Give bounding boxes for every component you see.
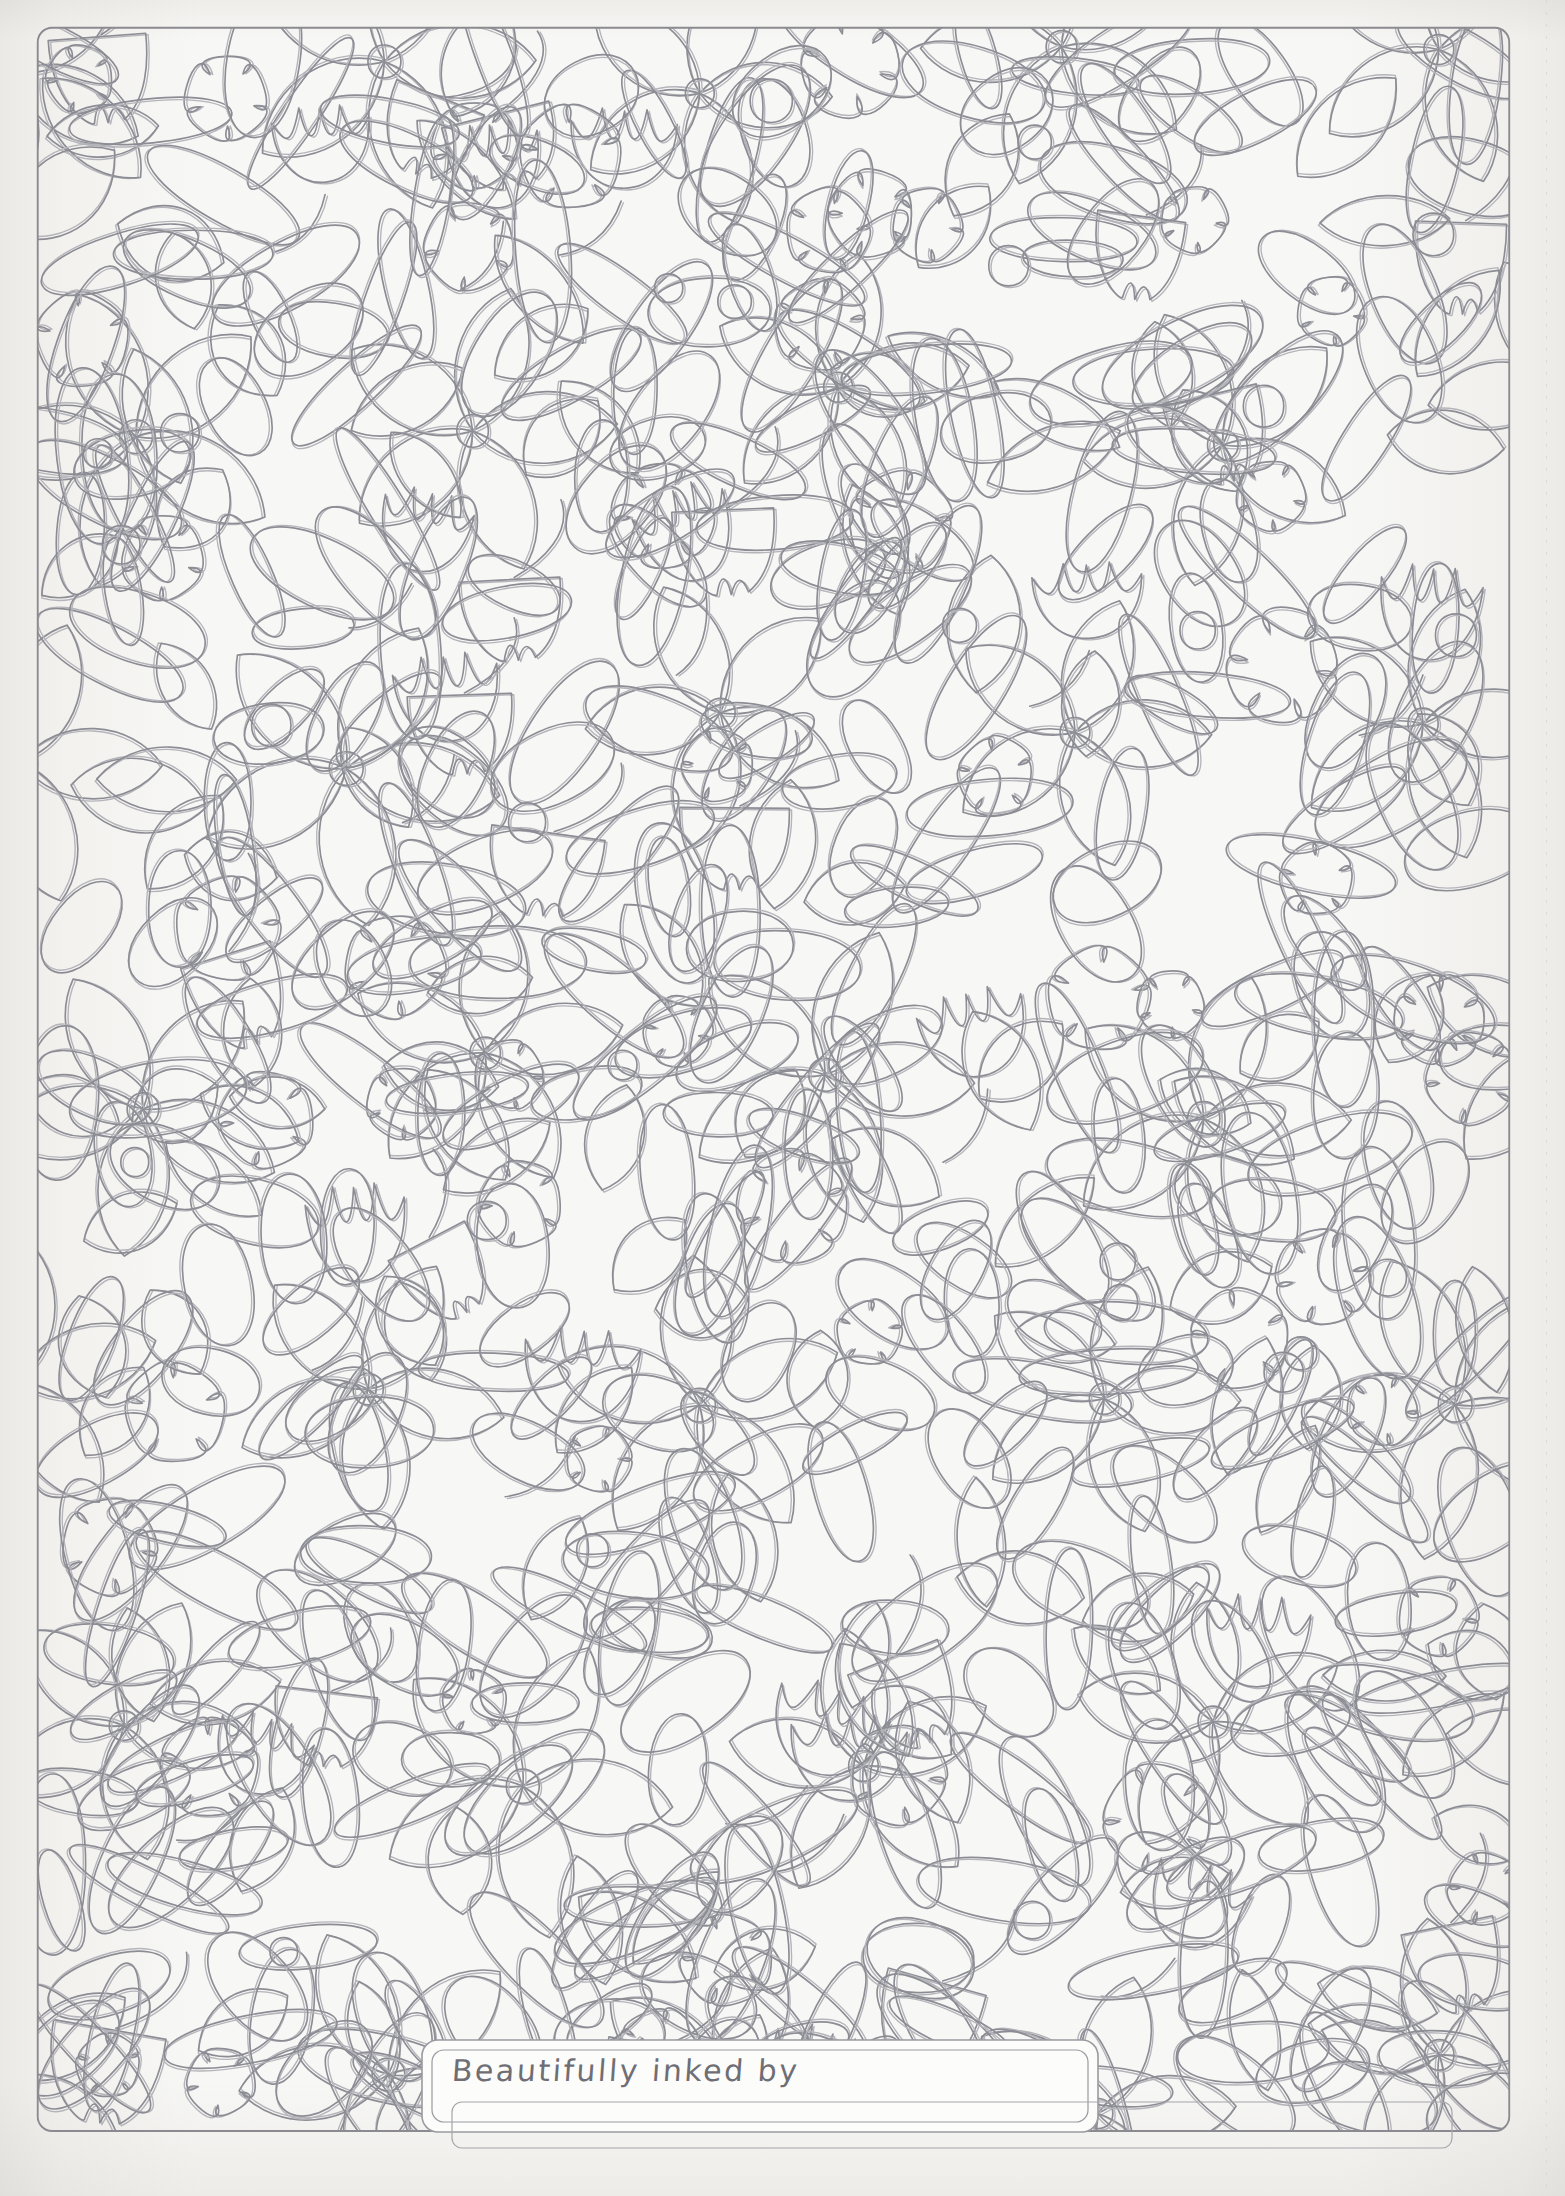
signature-label: Beautifully inked by [451, 2053, 801, 2088]
floral-pattern-artwork [36, 26, 1511, 2133]
right-margin-guide [1546, 0, 1547, 2196]
coloring-page: Beautifully inked by [0, 0, 1565, 2196]
